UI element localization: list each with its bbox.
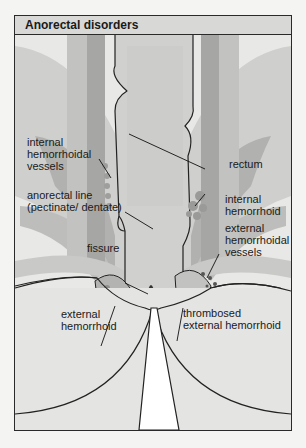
label-anorectal-line: anorectal line (pectinate/ dentate)	[27, 189, 122, 213]
label-line: hemorrhoid	[225, 205, 281, 217]
label-line: external	[225, 222, 289, 234]
label-line: internal	[225, 193, 281, 205]
title-bar: Anorectal disorders	[15, 16, 291, 35]
label-line: (pectinate/ dentate)	[27, 201, 122, 213]
label-external-hemorrhoidal-vessels: external hemorrhoidal vessels	[225, 222, 289, 258]
label-line: hemorrhoidal	[225, 234, 289, 246]
label-line: thrombosed	[183, 307, 281, 319]
label-line: anorectal line	[27, 189, 122, 201]
label-line: vessels	[27, 160, 91, 172]
label-line: external	[61, 308, 117, 320]
label-fissure: fissure	[87, 242, 119, 254]
label-line: internal	[27, 136, 91, 148]
label-line: external hemorrhoid	[183, 319, 281, 331]
label-line: hemorrhoidal	[27, 148, 91, 160]
label-internal-hemorrhoid: internal hemorrhoid	[225, 193, 281, 217]
label-rectum: rectum	[229, 158, 263, 170]
label-internal-hemorrhoidal-vessels: internal hemorrhoidal vessels	[27, 136, 91, 172]
label-thrombosed-external-hemorrhoid: thrombosed external hemorrhoid	[183, 307, 281, 331]
label-line: hemorrhoid	[61, 320, 117, 332]
label-line: vessels	[225, 246, 289, 258]
diagram-frame: Anorectal disorders	[14, 15, 292, 431]
label-external-hemorrhoid: external hemorrhoid	[61, 308, 117, 332]
diagram-title: Anorectal disorders	[25, 18, 138, 32]
